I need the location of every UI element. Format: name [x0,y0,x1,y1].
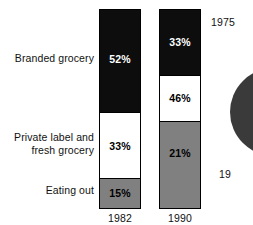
pie-slice-shape [230,68,253,156]
category-label-eating-out: Eating out [2,184,94,197]
pie-year-label-bottom: 19 [219,168,231,180]
segment-value-label: 33% [109,141,130,152]
bar-1982: 52% 33% 15% [99,9,141,209]
bar-segment-1990-eating-out: 21% [160,122,200,208]
bar-segment-1982-eating-out: 15% [100,179,140,208]
bar-segment-1990-private-label-and-fresh-grocery: 46% [160,75,200,122]
category-label-branded-grocery: Branded grocery [2,52,94,65]
year-label-1990: 1990 [159,212,201,224]
segment-value-label: 52% [109,54,130,65]
segment-value-label: 15% [109,188,130,199]
segment-value-label: 21% [169,148,190,159]
stacked-bar-chart-figure: Branded grocery Private label and fresh … [0,0,253,225]
pie-year-label-top: 1975 [211,16,253,28]
bar-segment-1982-private-label-and-fresh-grocery: 33% [100,112,140,179]
bar-1990: 33% 46% 21% [159,9,201,209]
bar-segment-1990-branded-grocery: 33% [160,10,200,75]
partial-pie-chart: 1975 19 [206,0,253,225]
segment-value-label: 46% [169,93,190,104]
category-label-private-label-and-fresh-grocery: Private label and fresh grocery [2,131,94,156]
segment-value-label: 33% [169,37,190,48]
year-label-1982: 1982 [99,212,141,224]
bar-segment-1982-branded-grocery: 52% [100,10,140,112]
